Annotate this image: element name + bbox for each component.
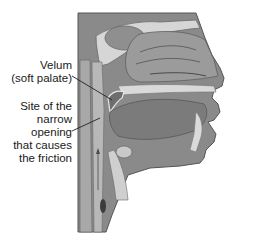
label-velum-line: Velum xyxy=(0,59,72,72)
vocal-folds xyxy=(100,199,106,213)
nasal-cavity xyxy=(126,32,218,82)
label-site-line: that causes xyxy=(0,139,72,152)
label-site-line: opening xyxy=(0,126,72,139)
label-site-line: Site of the xyxy=(0,100,72,113)
label-site-line: the friction xyxy=(0,152,72,165)
anatomy-figure: Velum (soft palate) Site of the narrow o… xyxy=(0,0,263,242)
pharynx-wall xyxy=(80,60,92,232)
label-velum-line: (soft palate) xyxy=(0,72,72,85)
hyoid xyxy=(116,146,132,158)
label-friction-site: Site of the narrow opening that causes t… xyxy=(0,100,72,165)
label-velum: Velum (soft palate) xyxy=(0,59,72,85)
label-site-line: narrow xyxy=(0,113,72,126)
